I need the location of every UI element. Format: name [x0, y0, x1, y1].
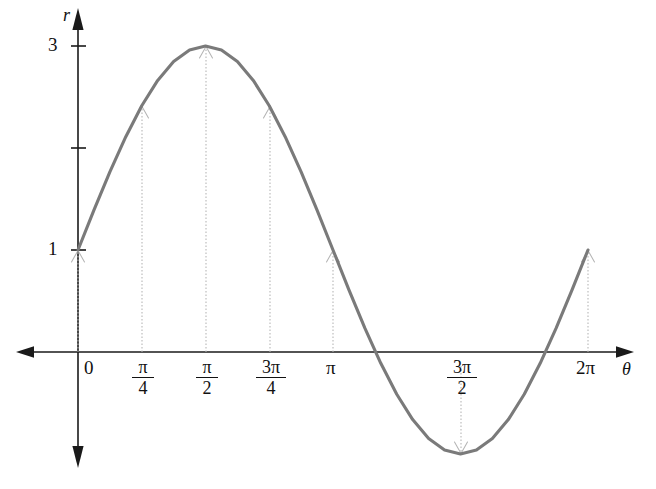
guide-arrow-theta-pi — [327, 251, 340, 353]
x-axis-label: θ — [622, 360, 631, 378]
caption-strip-faint — [0, 477, 656, 489]
y-axis-label: r — [63, 6, 70, 24]
y-tick-label-3: 3 — [48, 35, 58, 54]
x-tick-label-3pi-over-2-numerator: 3π — [447, 358, 477, 378]
y-tick-label-1: 1 — [48, 239, 58, 258]
polar-function-cartesian-plot: r θ 3 1 0 π 4 π 2 3π 4 π 3π 2 2π — [0, 0, 656, 489]
x-tick-label-pi-over-4: π 4 — [132, 358, 154, 397]
x-axis-right-arrowhead — [616, 346, 634, 358]
guide-arrow-theta-3pi-over-4 — [264, 107, 277, 353]
x-tick-label-pi-over-2-denominator: 2 — [196, 378, 218, 397]
x-tick-label-2pi: 2π — [576, 358, 595, 377]
x-tick-label-pi-over-2-numerator: π — [196, 358, 218, 378]
guide-arrow-theta-pi-over-2 — [200, 47, 213, 353]
guide-arrow-theta-2pi — [582, 251, 595, 353]
x-axis-left-arrowhead — [16, 346, 34, 358]
x-tick-label-3pi-over-2: 3π 2 — [447, 358, 477, 397]
sinusoid-curve — [78, 46, 588, 454]
x-tick-label-3pi-over-2-denominator: 2 — [447, 378, 477, 397]
x-tick-label-3pi-over-4: 3π 4 — [256, 358, 286, 397]
x-tick-label-0: 0 — [84, 358, 94, 377]
y-axis-down-arrowhead — [72, 446, 83, 468]
x-tick-label-pi-over-4-denominator: 4 — [132, 378, 154, 397]
x-tick-label-3pi-over-4-numerator: 3π — [256, 358, 286, 378]
y-axis-up-arrowhead — [72, 8, 83, 30]
x-tick-label-3pi-over-4-denominator: 4 — [256, 378, 286, 397]
guide-arrow-theta-pi-over-4 — [136, 107, 149, 353]
x-axis-group — [16, 346, 634, 358]
x-tick-label-pi-over-4-numerator: π — [132, 358, 154, 378]
x-tick-label-pi-over-2: π 2 — [196, 358, 218, 397]
plot-canvas — [0, 0, 656, 489]
x-tick-label-pi: π — [326, 358, 336, 377]
